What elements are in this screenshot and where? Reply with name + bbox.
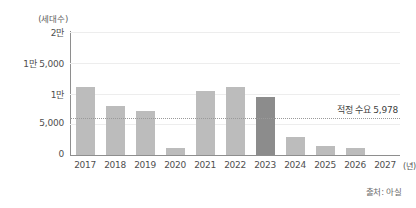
bar-2024 bbox=[286, 137, 305, 155]
threshold-label: 적정 수요 5,978 bbox=[337, 103, 398, 116]
y-axis-unit-label: (세대수) bbox=[0, 12, 68, 24]
y-axis-tick-label: 0 bbox=[0, 149, 64, 159]
x-axis-tick-label: 2023 bbox=[248, 160, 282, 170]
bars-layer bbox=[70, 32, 400, 155]
bar-2026 bbox=[346, 148, 365, 155]
bar-2018 bbox=[106, 106, 125, 155]
x-axis-tick-label: 2017 bbox=[68, 160, 102, 170]
source-note: 출처: 아실 bbox=[366, 185, 402, 197]
bar-2023 bbox=[256, 97, 275, 155]
x-axis-tick-label: 2021 bbox=[188, 160, 222, 170]
y-axis-tick-label: 2만 bbox=[0, 26, 64, 39]
bar-2021 bbox=[196, 91, 215, 155]
x-axis-line bbox=[70, 155, 400, 156]
bar-2022 bbox=[226, 87, 245, 155]
bar-2020 bbox=[166, 148, 185, 155]
bar-2025 bbox=[316, 146, 335, 155]
x-axis-tick-label: 2027 bbox=[368, 160, 402, 170]
x-axis-tick-label: 2026 bbox=[338, 160, 372, 170]
y-axis-tick-label: 1만 bbox=[0, 88, 64, 101]
x-axis-tick-label: 2020 bbox=[158, 160, 192, 170]
x-axis-tick-label: 2024 bbox=[278, 160, 312, 170]
x-axis-unit-label: (년) bbox=[403, 160, 416, 171]
threshold-line bbox=[70, 118, 400, 119]
y-axis-tick-label: 1만 5,000 bbox=[0, 57, 64, 70]
plot-area: 적정 수요 5,978 bbox=[70, 32, 400, 155]
x-axis-tick-label: 2018 bbox=[98, 160, 132, 170]
x-axis-tick-label: 2022 bbox=[218, 160, 252, 170]
bar-2017 bbox=[76, 87, 95, 155]
y-axis-tick-label: 5,000 bbox=[0, 118, 64, 128]
x-axis-tick-label: 2019 bbox=[128, 160, 162, 170]
x-axis-tick-label: 2025 bbox=[308, 160, 342, 170]
